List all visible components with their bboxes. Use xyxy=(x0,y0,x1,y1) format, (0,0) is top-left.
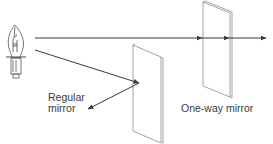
one-way-mirror-label: One-way mirror xyxy=(181,103,253,114)
regular-mirror-label-line2: mirror xyxy=(48,103,85,114)
mirror-diagram xyxy=(0,0,273,144)
one-way-mirror xyxy=(203,1,232,98)
regular-mirror-label: Regular mirror xyxy=(48,92,85,114)
regular-mirror xyxy=(133,44,163,144)
light-bulb-icon xyxy=(6,25,26,78)
